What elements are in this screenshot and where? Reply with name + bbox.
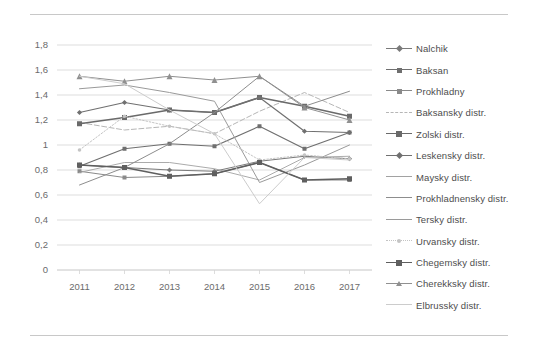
data-point-marker [77, 121, 82, 126]
legend-marker-icon [396, 281, 402, 286]
y-axis-tick-label: 0,6 [35, 189, 48, 200]
y-axis-tick-label: 1,2 [35, 114, 48, 125]
y-axis-tick-label: 0 [43, 264, 48, 275]
data-point-marker [347, 176, 352, 181]
x-axis-tick-label: 2013 [159, 281, 180, 292]
legend-item-leskensky-distr[interactable]: Leskensky distr. [386, 145, 536, 166]
legend-line-icon [386, 176, 412, 177]
data-point-marker [123, 176, 127, 180]
y-axis-tick-label: 0,2 [35, 239, 48, 250]
legend-item-elbrussky-distr[interactable]: Elbrussky distr. [386, 295, 536, 316]
legend-swatch-icon [386, 128, 412, 140]
legend-item-label: Baksan [416, 65, 448, 76]
legend-item-prokhladny[interactable]: Prokhladny [386, 81, 536, 102]
legend-swatch-icon [386, 150, 412, 162]
y-axis-tick-label: 0,8 [35, 164, 48, 175]
legend-item-label: Prokhladny [416, 86, 465, 97]
data-point-marker [257, 160, 262, 165]
data-point-marker [78, 148, 82, 152]
legend-swatch-icon [386, 171, 412, 183]
legend-item-cherekksky-distr[interactable]: Cherekksky distr. [386, 273, 536, 294]
legend-swatch-icon [386, 214, 412, 226]
legend-marker-icon [397, 239, 401, 243]
legend-item-label: Chegemsky distr. [416, 257, 490, 268]
data-point-marker [168, 124, 172, 128]
x-axis-tick-label: 2012 [114, 281, 135, 292]
legend-swatch-icon [386, 85, 412, 97]
data-point-marker [77, 163, 82, 168]
data-point-marker [122, 100, 127, 105]
legend-line-icon [386, 304, 412, 305]
data-point-marker [123, 114, 127, 118]
series-cherekksky-distr [77, 73, 353, 123]
legend-item-tersky-distr[interactable]: Tersky distr. [386, 209, 536, 230]
series-urvansky-distr [78, 114, 352, 161]
legend-item-urvansky-distr[interactable]: Urvansky distr. [386, 231, 536, 252]
series-chegemsky-distr [77, 160, 352, 183]
legend-item-label: Baksansky distr. [416, 107, 486, 118]
x-axis-tick-label: 2014 [204, 281, 225, 292]
legend-swatch-icon [386, 257, 412, 269]
data-point-marker [77, 110, 82, 115]
legend-swatch-icon [386, 235, 412, 247]
legend-line-icon [386, 197, 412, 198]
legend-marker-icon [395, 45, 402, 52]
legend-item-label: Leskensky distr. [416, 150, 485, 161]
legend-item-baksan[interactable]: Baksan [386, 59, 536, 80]
x-axis-tick-label: 2011 [69, 281, 89, 292]
legend-line-icon [386, 219, 412, 220]
legend-item-label: Zolski distr. [416, 129, 465, 140]
legend-item-label: Urvansky distr. [416, 236, 480, 247]
legend-swatch-icon [386, 64, 412, 76]
figure-bottom-border [30, 335, 508, 336]
legend-item-label: Cherekksky distr. [416, 278, 490, 289]
legend-swatch-icon [386, 107, 412, 119]
legend-item-prokhladnensky-distr[interactable]: Prokhladnensky distr. [386, 188, 536, 209]
legend-item-label: Prokhladnensky distr. [416, 193, 508, 204]
legend-swatch-icon [386, 299, 412, 311]
data-point-marker [122, 165, 127, 170]
legend-item-nalchik[interactable]: Nalchik [386, 38, 536, 59]
y-axis-tick-label: 1 [43, 139, 48, 150]
line-chart-svg: 00,20,40,60,811,21,41,61,820112012201320… [0, 0, 380, 320]
series-line [80, 116, 350, 160]
data-point-marker [258, 124, 262, 128]
legend-item-zolski-distr[interactable]: Zolski distr. [386, 124, 536, 145]
legend-marker-icon [396, 260, 402, 266]
legend-swatch-icon [386, 43, 412, 55]
data-point-marker [303, 153, 307, 157]
legend-marker-icon [396, 131, 402, 137]
y-axis-tick-label: 1,4 [35, 89, 48, 100]
legend-marker-icon [397, 68, 402, 73]
x-axis-tick-label: 2017 [339, 281, 360, 292]
x-axis-tick-label: 2016 [294, 281, 315, 292]
data-point-marker [213, 144, 217, 148]
data-point-marker [303, 147, 307, 151]
data-point-marker [167, 174, 172, 179]
y-axis-tick-label: 1,6 [35, 64, 48, 75]
y-axis-tick-label: 1,8 [35, 39, 48, 50]
data-point-marker [302, 178, 307, 183]
data-point-marker [167, 167, 172, 172]
data-point-marker [123, 147, 127, 151]
chart-figure: 00,20,40,60,811,21,41,61,820112012201320… [0, 0, 538, 357]
plot-area: 00,20,40,60,811,21,41,61,820112012201320… [0, 0, 380, 320]
legend-swatch-icon [386, 192, 412, 204]
legend-item-label: Elbrussky distr. [416, 300, 481, 311]
legend-item-maysky-distr[interactable]: Maysky distr. [386, 166, 536, 187]
data-point-marker [212, 171, 217, 176]
legend-swatch-icon [386, 278, 412, 290]
y-axis-tick-label: 0,4 [35, 214, 48, 225]
legend-marker-icon [397, 89, 402, 94]
legend-marker-icon [395, 152, 402, 159]
legend-line-icon [386, 112, 412, 113]
legend-item-chegemsky-distr[interactable]: Chegemsky distr. [386, 252, 536, 273]
x-axis-tick-label: 2015 [249, 281, 270, 292]
legend-item-baksansky-distr[interactable]: Baksansky distr. [386, 102, 536, 123]
legend-item-label: Nalchik [416, 43, 448, 54]
legend-item-label: Tersky distr. [416, 214, 467, 225]
chart-legend: NalchikBaksanProkhladnyBaksansky distr.Z… [386, 38, 536, 316]
legend-item-label: Maysky distr. [416, 172, 472, 183]
